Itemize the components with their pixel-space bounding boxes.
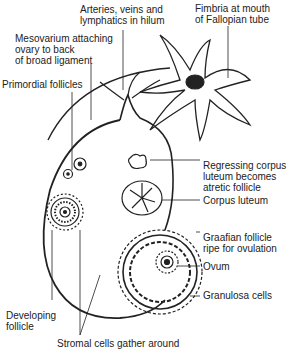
label-line: Stromal cells gather around	[57, 338, 179, 349]
label-line: Graafian follicle	[203, 232, 277, 243]
label-line: Granulosa cells	[203, 290, 272, 301]
label-line: of broad ligament	[15, 55, 113, 66]
label-developing-follicle: Developing follicle	[6, 310, 56, 332]
label-line: Mesovarium attaching	[15, 33, 113, 44]
label-line: ovary to back	[15, 44, 113, 55]
label-line: Developing	[6, 310, 56, 321]
label-line: Primordial follicles	[2, 79, 83, 90]
label-mesovarium: Mesovarium attaching ovary to back of br…	[15, 33, 113, 66]
label-line: Arteries, veins and	[80, 4, 164, 15]
label-line: Corpus luteum	[203, 195, 268, 206]
label-granulosa-cells: Granulosa cells	[203, 290, 272, 301]
label-line: atretic follicle	[203, 182, 286, 193]
label-line: Regressing corpus	[203, 160, 286, 171]
label-line: Fimbria at mouth	[195, 3, 270, 14]
label-line: of Fallopian tube	[195, 14, 270, 25]
label-stromal-cells: Stromal cells gather around	[57, 338, 179, 349]
label-line: Ovum	[203, 261, 230, 272]
label-line: lymphatics in hilum	[80, 15, 164, 26]
ovary-diagram: Arteries, veins and lymphatics in hilum …	[0, 0, 287, 353]
label-ovum: Ovum	[203, 261, 230, 272]
label-graafian-follicle: Graafian follicle ripe for ovulation	[203, 232, 277, 254]
label-corpus-luteum: Corpus luteum	[203, 195, 268, 206]
label-arteries: Arteries, veins and lymphatics in hilum	[80, 4, 164, 26]
label-primordial-follicles: Primordial follicles	[2, 79, 83, 90]
label-fimbria: Fimbria at mouth of Fallopian tube	[195, 3, 270, 25]
label-regressing-corpus-luteum: Regressing corpus luteum becomes atretic…	[203, 160, 286, 193]
label-line: follicle	[6, 321, 56, 332]
label-line: luteum becomes	[203, 171, 286, 182]
label-line: ripe for ovulation	[203, 243, 277, 254]
